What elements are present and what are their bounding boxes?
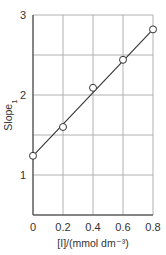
y-axis-label: Slope1: [2, 99, 19, 131]
x-tick-label: 0: [30, 221, 36, 233]
data-point-marker: [150, 26, 157, 33]
data-point-marker: [90, 84, 97, 91]
x-tick-label: 0.4: [85, 221, 100, 233]
y-tick-labels: 123: [20, 9, 26, 181]
x-tick-label: 0.2: [55, 221, 70, 233]
x-tick-label: 0.6: [115, 221, 130, 233]
y-tick-label: 3: [20, 9, 26, 21]
y-tick-label: 1: [20, 169, 26, 181]
y-tick-label: 2: [20, 89, 26, 101]
data-point-marker: [60, 124, 67, 131]
grid-lines: [33, 15, 153, 215]
data-point-marker: [120, 56, 127, 63]
y-axis-label-subscript: 1: [10, 99, 19, 104]
x-tick-label: 0.8: [145, 221, 160, 233]
data-point-marker: [30, 152, 37, 159]
x-axis-label: [I]/(mmol dm⁻³): [57, 237, 128, 249]
x-tick-labels: 00.20.40.60.8: [30, 221, 161, 233]
slope-vs-concentration-chart: 00.20.40.60.8 123 [I]/(mmol dm⁻³) Slope1: [0, 0, 166, 255]
